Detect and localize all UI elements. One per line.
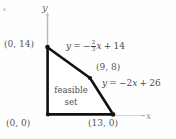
vertex-label-0-0: (0, 0) [6, 119, 30, 128]
equation-lower-plus: + [140, 79, 148, 88]
equation-lower-constraint: y = − 2 x + 26 [102, 79, 161, 88]
equation-lower-variable: x [132, 79, 137, 88]
equation-upper-lhs: y [66, 42, 71, 51]
equation-upper-fraction: 2 3 [91, 40, 96, 53]
equation-upper-variable: x [97, 42, 102, 51]
vertex-marker-9-8 [88, 76, 92, 80]
equation-upper-equals: = [73, 42, 81, 51]
equation-upper-plus: + [104, 42, 112, 51]
equation-upper-constraint: y = − 2 3 x + 14 [66, 40, 125, 53]
equation-upper-constant: 14 [114, 42, 125, 51]
equation-lower-constant: 26 [149, 79, 160, 88]
y-axis-label: y [42, 3, 48, 13]
x-axis-label: x [146, 112, 151, 121]
equation-upper-minus: − [83, 42, 91, 51]
vertex-label-9-8: (9, 8) [96, 63, 120, 72]
vertex-marker-0-14 [45, 45, 50, 50]
vertex-label-0-14: (0, 14) [4, 40, 34, 49]
equation-lower-equals: = [109, 79, 117, 88]
feasible-set-label: feasible set [49, 84, 93, 109]
vertex-marker-0-0 [46, 112, 50, 116]
equation-lower-lhs: y [102, 79, 107, 88]
fraction-denominator: 3 [91, 47, 96, 53]
fraction-numerator: 2 [91, 40, 96, 46]
vertex-label-13-0: (13, 0) [88, 119, 118, 128]
feasible-set-figure: y x (0, 14) (9, 8) (13, 0) (0, 0) feasib… [0, 0, 176, 139]
equation-lower-minus: − [119, 79, 127, 88]
vertex-marker-13-0 [111, 112, 116, 117]
